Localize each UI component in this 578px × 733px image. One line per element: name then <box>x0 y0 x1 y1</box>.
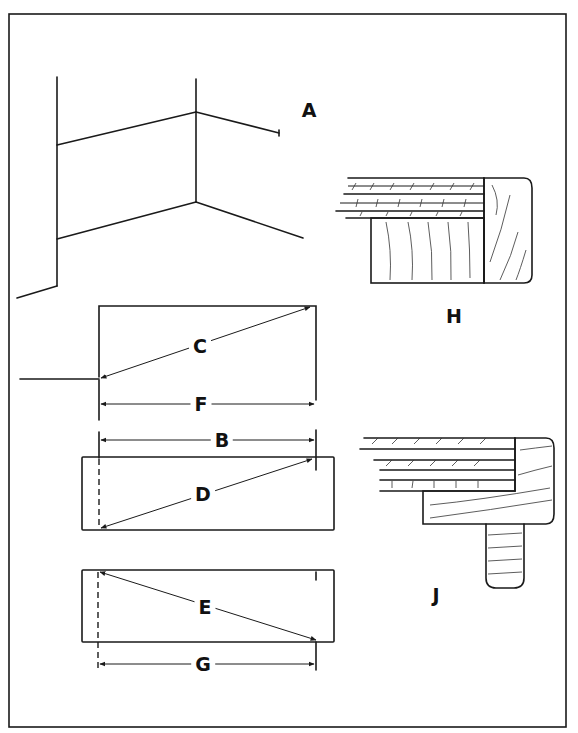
rectangle-c-f <box>20 306 316 420</box>
rectangle-b-d <box>82 430 334 530</box>
edge-section-j <box>360 438 554 588</box>
label-j: J <box>428 586 443 605</box>
label-c: C <box>189 337 211 356</box>
label-e: E <box>195 598 216 617</box>
label-h: H <box>442 307 466 326</box>
label-a: A <box>298 101 321 120</box>
edge-section-h <box>336 178 532 283</box>
label-d: D <box>191 485 215 504</box>
label-f: F <box>191 395 212 414</box>
outer-frame <box>9 14 566 727</box>
label-g: G <box>191 655 215 674</box>
technical-diagram <box>0 0 578 733</box>
room-corner-drawing-a <box>17 77 303 298</box>
label-b: B <box>211 431 233 450</box>
